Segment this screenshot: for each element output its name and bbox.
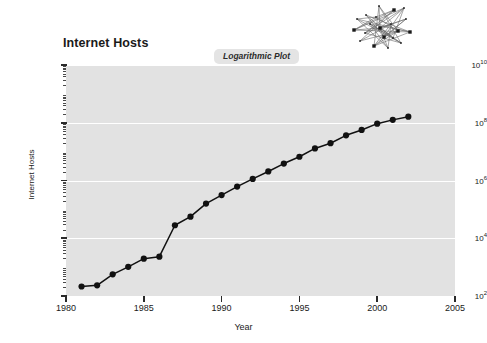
y-tick-minor	[63, 192, 66, 193]
y-axis-title: Internet Hosts	[27, 130, 36, 220]
y-tick-minor	[63, 279, 66, 280]
x-tick-label: 1995	[289, 303, 309, 313]
plot-type-badge: Logarithmic Plot	[214, 49, 299, 64]
series-line	[82, 117, 409, 287]
y-tick-minor	[63, 69, 66, 70]
y-tick-minor	[63, 230, 66, 231]
data-point-marker	[78, 283, 84, 289]
y-tick-minor	[63, 85, 66, 86]
y-tick-minor	[63, 282, 66, 283]
y-tick-minor	[63, 172, 66, 173]
x-axis-title: Year	[0, 322, 487, 332]
y-tick-minor	[63, 167, 66, 168]
x-tick-label: 1990	[212, 303, 232, 313]
y-tick-minor	[63, 212, 66, 213]
y-tick-minor	[63, 156, 66, 157]
data-point-marker	[156, 254, 162, 260]
y-tick-minor	[63, 250, 66, 251]
data-point-marker	[312, 145, 318, 151]
y-tick-minor	[63, 66, 66, 67]
y-tick-minor	[63, 258, 66, 259]
y-tick-label: 1010	[430, 61, 487, 70]
y-tick-minor	[63, 134, 66, 135]
data-point-marker	[141, 256, 147, 262]
data-point-marker	[250, 176, 256, 182]
y-tick-minor	[63, 124, 66, 125]
y-tick-minor	[63, 214, 66, 215]
data-point-marker	[296, 154, 302, 160]
y-tick-minor	[63, 105, 66, 106]
y-tick-minor	[63, 109, 66, 110]
y-tick-minor	[63, 163, 66, 164]
data-point-marker	[187, 214, 193, 220]
y-tick-minor	[63, 211, 66, 212]
x-tick-major	[376, 296, 378, 302]
y-tick-minor	[63, 247, 66, 248]
y-tick-minor	[63, 196, 66, 197]
y-tick-minor	[63, 129, 66, 130]
y-tick-minor	[63, 268, 66, 269]
y-tick-minor	[63, 240, 66, 241]
data-point-marker	[125, 264, 131, 270]
chart-figure: Internet Hosts Logarithmic Plot 10210410…	[0, 0, 487, 343]
data-point-marker	[94, 282, 100, 288]
y-tick-minor	[63, 272, 66, 273]
y-tick-minor	[63, 103, 66, 104]
y-tick-minor	[63, 221, 66, 222]
y-tick-minor	[63, 216, 66, 217]
y-tick-minor	[63, 201, 66, 202]
y-tick-minor	[63, 158, 66, 159]
x-tick-major	[299, 296, 301, 302]
y-tick-minor	[63, 95, 66, 96]
y-tick-minor	[63, 131, 66, 132]
y-tick-minor	[63, 126, 66, 127]
y-tick-minor	[63, 138, 66, 139]
y-tick-minor	[63, 189, 66, 190]
data-point-marker	[203, 200, 209, 206]
y-tick-minor	[63, 100, 66, 101]
y-tick-minor	[63, 74, 66, 75]
y-tick-minor	[63, 243, 66, 244]
data-point-marker	[374, 121, 380, 127]
data-point-marker	[219, 192, 225, 198]
y-tick-minor	[63, 185, 66, 186]
y-tick-minor	[63, 80, 66, 81]
x-tick-label: 2000	[367, 303, 387, 313]
y-tick-minor	[63, 114, 66, 115]
y-tick-minor	[63, 182, 66, 183]
data-point-marker	[110, 271, 116, 277]
data-point-marker	[327, 140, 333, 146]
y-tick-minor	[63, 187, 66, 188]
data-point-marker	[172, 222, 178, 228]
y-tick-minor	[63, 287, 66, 288]
y-tick-minor	[63, 270, 66, 271]
y-tick-minor	[63, 97, 66, 98]
y-tick-minor	[63, 224, 66, 225]
y-tick-label: 104	[430, 234, 487, 243]
y-tick-minor	[63, 153, 66, 154]
data-point-marker	[234, 183, 240, 189]
x-tick-label: 1980	[56, 303, 76, 313]
y-tick-minor	[63, 253, 66, 254]
data-point-marker	[281, 160, 287, 166]
y-tick-minor	[63, 143, 66, 144]
y-tick-minor	[63, 160, 66, 161]
y-tick-minor	[63, 68, 66, 69]
y-tick-minor	[63, 241, 66, 242]
x-tick-major	[143, 296, 145, 302]
data-point-marker	[390, 117, 396, 123]
y-tick-minor	[63, 154, 66, 155]
data-point-marker	[405, 114, 411, 120]
data-point-marker	[359, 127, 365, 133]
data-point-marker	[265, 168, 271, 174]
y-tick-minor	[63, 276, 66, 277]
y-tick-minor	[63, 183, 66, 184]
x-tick-major	[221, 296, 223, 302]
x-tick-label: 1985	[134, 303, 154, 313]
x-tick-major	[454, 296, 456, 302]
data-point-marker	[343, 132, 349, 138]
axis-corner-mark	[65, 296, 67, 302]
y-tick-minor	[63, 245, 66, 246]
y-tick-minor	[63, 76, 66, 77]
y-tick-minor	[63, 127, 66, 128]
